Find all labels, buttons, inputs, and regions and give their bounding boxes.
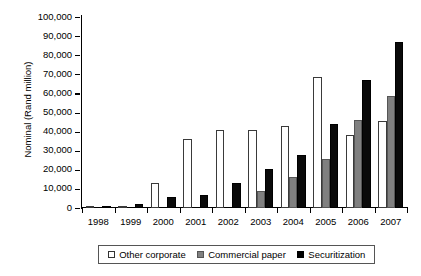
y-tick-mark [75, 74, 80, 75]
bar-2001-secur [200, 195, 208, 208]
legend-swatch-secur-icon [297, 251, 305, 259]
y-tick-label: 90,000 [43, 30, 72, 41]
bar-2004-commercial [289, 177, 297, 209]
y-tick-label: 30,000 [43, 144, 72, 155]
x-tick-mark [212, 208, 213, 213]
y-tick-label: 80,000 [43, 49, 72, 60]
legend-label: Other corporate [119, 249, 186, 260]
bar-1998-other [86, 206, 94, 208]
y-tick-label: 60,000 [43, 87, 72, 98]
x-tick-mark [115, 208, 116, 213]
y-tick-label: 20,000 [43, 163, 72, 174]
bar-2007-secur [395, 42, 403, 208]
bar-2000-secur [167, 197, 175, 208]
y-tick-label: 0 [67, 202, 72, 213]
plot-bars [82, 17, 407, 208]
legend-item-commercial[interactable]: Commercial paper [197, 249, 286, 260]
bar-2002-other [216, 130, 224, 208]
x-axis-label-2007: 2007 [371, 216, 411, 227]
y-tick-mark [75, 151, 80, 152]
x-tick-mark [310, 208, 311, 213]
y-tick-label: 70,000 [43, 68, 72, 79]
chart-legend: Other corporateCommercial paperSecuritiz… [98, 245, 375, 264]
y-tick-mark [75, 93, 80, 94]
x-tick-mark [180, 208, 181, 213]
y-tick-label: 50,000 [43, 106, 72, 117]
bar-1999-other [118, 206, 126, 208]
bar-2000-other [151, 183, 159, 208]
legend-label: Commercial paper [208, 249, 286, 260]
bar-2006-secur [362, 80, 370, 208]
bar-2004-other [281, 126, 289, 208]
x-tick-mark [277, 208, 278, 213]
bar-2005-commercial [322, 159, 330, 208]
bar-2004-secur [297, 155, 305, 208]
bar-1998-secur [102, 206, 110, 208]
bar-2001-other [183, 139, 191, 208]
bar-2006-commercial [354, 120, 362, 208]
legend-swatch-commercial-icon [197, 251, 205, 259]
x-tick-mark [82, 208, 83, 213]
x-tick-mark [147, 208, 148, 213]
x-tick-mark [245, 208, 246, 213]
y-tick-mark [75, 132, 80, 133]
y-tick-label: 40,000 [43, 125, 72, 136]
y-tick-mark [75, 170, 80, 171]
bar-chart-figure: Nominal (Rand million) 010,00020,00030,0… [0, 0, 421, 276]
bar-2003-other [248, 130, 256, 208]
bar-2005-other [313, 77, 321, 208]
bar-2002-secur [232, 183, 240, 208]
y-tick-mark [75, 113, 80, 114]
y-axis-title: Nominal (Rand million) [22, 20, 33, 200]
bar-2003-secur [265, 169, 273, 208]
bar-2003-commercial [257, 191, 265, 208]
y-tick-mark [75, 189, 80, 190]
legend-item-other[interactable]: Other corporate [108, 249, 186, 260]
bar-2007-other [378, 121, 386, 208]
x-tick-mark [342, 208, 343, 213]
y-tick-mark [75, 55, 80, 56]
y-tick-mark [75, 17, 80, 18]
y-tick-label: 10,000 [43, 182, 72, 193]
legend-label: Securitization [308, 249, 365, 260]
y-tick-label: 100,000 [38, 11, 72, 22]
legend-item-secur[interactable]: Securitization [297, 249, 366, 260]
legend-swatch-other-icon [108, 251, 116, 259]
bar-2005-secur [330, 124, 338, 208]
bar-1999-secur [135, 204, 143, 208]
y-tick-mark [75, 208, 80, 209]
x-tick-mark [407, 208, 408, 213]
y-tick-mark [75, 36, 80, 37]
x-tick-mark [375, 208, 376, 213]
bar-2006-other [346, 135, 354, 208]
bar-2007-commercial [387, 96, 395, 208]
